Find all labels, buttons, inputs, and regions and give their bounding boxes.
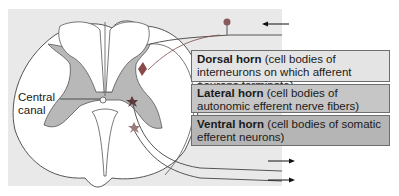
dorsal-horn-title: Dorsal horn (197, 53, 262, 65)
central-canal (100, 97, 106, 103)
central-canal-label: Central canal (18, 91, 55, 117)
central-canal-label-line2: canal (18, 104, 55, 117)
efferent-arrow-icon-2 (289, 178, 295, 183)
afferent-arrow-icon (262, 22, 268, 27)
dorsal-horn-label: Dorsal horn (cell bodies of interneurons… (191, 50, 390, 82)
lateral-horn-title: Lateral horn (197, 87, 263, 99)
efferent-arrow-icon-1 (289, 159, 295, 164)
dorsal-root-ganglion (224, 19, 231, 26)
ventral-horn-label: Ventral horn (cell bodies of somatic eff… (191, 115, 390, 146)
lateral-horn-label: Lateral horn (cell bodies of autonomic e… (191, 84, 390, 113)
ventral-horn-title: Ventral horn (197, 118, 264, 130)
central-canal-label-line1: Central (18, 91, 55, 104)
